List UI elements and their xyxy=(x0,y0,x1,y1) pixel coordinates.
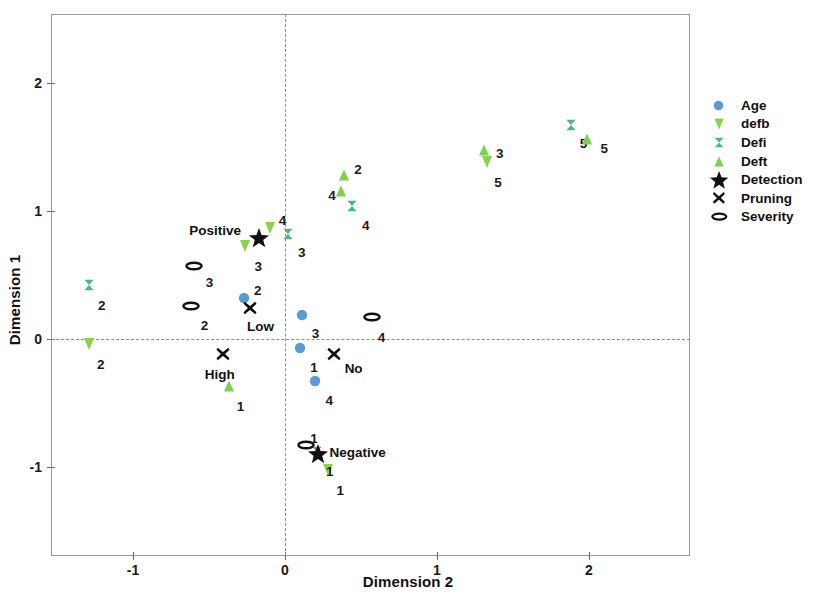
cross-x-marker[interactable] xyxy=(243,301,258,316)
triangle-up-marker[interactable] xyxy=(479,144,490,156)
x-axis-tick-label: 2 xyxy=(585,563,593,577)
legend-item-deft[interactable]: Deft xyxy=(706,152,817,171)
legend-label: Severity xyxy=(732,209,794,224)
legend-label: Pruning xyxy=(732,191,792,206)
x-axis-tick xyxy=(437,552,438,560)
cross-x-marker[interactable] xyxy=(326,347,341,362)
legend-label: Age xyxy=(732,98,767,113)
hourglass-icon xyxy=(706,133,732,151)
star-icon xyxy=(706,171,732,189)
point-label: 1 xyxy=(310,432,318,446)
triangle-down-marker[interactable] xyxy=(83,338,94,351)
ellipse-marker[interactable] xyxy=(185,261,203,271)
category-label: Negative xyxy=(329,446,385,460)
triangle-up-marker[interactable] xyxy=(582,133,593,145)
point-label: 2 xyxy=(97,358,105,372)
circle-marker[interactable] xyxy=(309,375,321,387)
circle-marker[interactable] xyxy=(294,342,306,354)
triangle-up-marker[interactable] xyxy=(336,185,347,197)
x-axis-tick xyxy=(589,552,590,560)
point-label: 1 xyxy=(337,484,345,498)
legend-label: Defi xyxy=(732,135,767,150)
point-label: 2 xyxy=(254,284,262,298)
point-label: 1 xyxy=(326,465,334,479)
category-label: Positive xyxy=(189,224,241,238)
hourglass-marker[interactable] xyxy=(346,200,357,212)
legend-item-defi[interactable]: Defi xyxy=(706,133,817,152)
y-axis-tick-label: 2 xyxy=(34,76,42,90)
point-label: 1 xyxy=(237,400,245,414)
point-label: 2 xyxy=(201,319,209,333)
plot-area xyxy=(51,14,690,556)
horizontal-zero-line xyxy=(51,339,690,340)
category-label: No xyxy=(345,362,363,376)
hourglass-marker[interactable] xyxy=(565,119,576,131)
point-label: 2 xyxy=(98,299,106,313)
chart-subtitle: Variable Principal Normalization xyxy=(0,0,409,15)
legend-item-severity[interactable]: Severity xyxy=(706,208,817,227)
cross-x-marker[interactable] xyxy=(215,347,230,362)
y-axis-tick xyxy=(47,211,55,212)
legend-label: Detection xyxy=(732,172,803,187)
point-label: 3 xyxy=(312,327,320,341)
legend-label: Deft xyxy=(732,154,767,169)
circle-marker[interactable] xyxy=(296,309,308,321)
point-label: 3 xyxy=(254,260,262,274)
ellipse-marker[interactable] xyxy=(182,301,200,311)
legend-label: defb xyxy=(732,116,770,131)
y-axis-tick-label: 0 xyxy=(34,332,42,346)
point-label: 5 xyxy=(494,176,502,190)
x-axis-tick-label: -1 xyxy=(127,563,139,577)
legend-item-age[interactable]: Age xyxy=(706,96,817,115)
vertical-zero-line xyxy=(285,14,286,556)
legend-item-defb[interactable]: defb xyxy=(706,115,817,134)
triangle-up-marker[interactable] xyxy=(223,380,234,392)
x-axis-title: Dimension 2 xyxy=(363,573,453,590)
ellipse-marker[interactable] xyxy=(363,312,381,322)
point-label: 2 xyxy=(354,163,362,177)
legend-item-pruning[interactable]: Pruning xyxy=(706,189,817,208)
legend-item-detection[interactable]: Detection xyxy=(706,170,817,189)
point-label: 4 xyxy=(378,331,386,345)
star-marker[interactable] xyxy=(248,227,270,249)
y-axis-tick-label: 1 xyxy=(34,204,42,218)
point-label: 5 xyxy=(600,142,608,156)
point-label: 3 xyxy=(298,246,306,260)
circle-icon xyxy=(706,96,732,114)
point-label: 3 xyxy=(496,147,504,161)
triangle-up-icon xyxy=(706,152,732,170)
point-label: 4 xyxy=(325,394,333,408)
triangle-up-marker[interactable] xyxy=(339,169,350,181)
y-axis-tick xyxy=(47,467,55,468)
triangle-down-marker[interactable] xyxy=(482,156,493,169)
point-label: 1 xyxy=(310,361,318,375)
scatter-plot-figure: -1012-1012 2314234512345112435PositiveNe… xyxy=(0,0,817,612)
hourglass-marker[interactable] xyxy=(283,228,294,240)
point-label: 4 xyxy=(362,219,370,233)
y-axis-tick-label: -1 xyxy=(30,460,42,474)
y-axis-tick xyxy=(47,83,55,84)
point-label: 4 xyxy=(328,189,336,203)
x-axis-tick-label: 0 xyxy=(281,563,289,577)
category-label: Low xyxy=(247,320,274,334)
category-label: High xyxy=(205,368,235,382)
x-axis-tick xyxy=(133,552,134,560)
triangle-down-icon xyxy=(706,115,732,133)
y-axis-title: Dimension 1 xyxy=(6,255,23,345)
hourglass-marker[interactable] xyxy=(83,279,94,291)
cross-x-icon xyxy=(706,189,732,207)
ellipse-icon xyxy=(706,208,732,226)
chart-legend: AgedefbDefiDeftDetectionPruningSeverity xyxy=(706,96,817,226)
point-label: 4 xyxy=(279,214,287,228)
point-label: 3 xyxy=(206,276,214,290)
